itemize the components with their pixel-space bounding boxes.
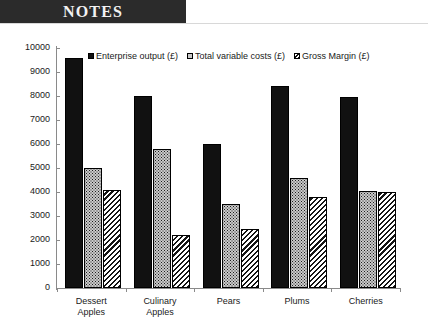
bar (103, 190, 121, 288)
x-axis-category-label: CulinaryApples (126, 296, 195, 318)
legend-swatch-icon (187, 53, 193, 59)
x-axis-category-label: Cherries (331, 296, 400, 307)
bar (84, 168, 102, 288)
x-axis-tick-mark (331, 288, 332, 292)
bar (378, 192, 396, 288)
bar (203, 144, 221, 288)
bar-group (271, 48, 327, 288)
category-label-line: Dessert (57, 296, 126, 307)
y-axis-tick-label: 10000 (2, 43, 50, 52)
x-axis-category-label: Pears (194, 296, 263, 307)
y-axis-tick-label: 6000 (2, 139, 50, 148)
bar (340, 97, 358, 288)
y-axis-tick-label: 3000 (2, 211, 50, 220)
legend-item: Gross Margin (£) (294, 51, 370, 61)
notes-banner: NOTES (0, 0, 186, 23)
y-axis-tick-label: 4000 (2, 187, 50, 196)
category-label-line: Apples (57, 307, 126, 318)
category-label-line: Plums (263, 296, 332, 307)
bar-group (340, 48, 396, 288)
bar (134, 96, 152, 288)
category-label-line: Culinary (126, 296, 195, 307)
legend-swatch-icon (294, 53, 300, 59)
x-axis-tick-mark (57, 288, 58, 292)
x-axis-category-label: DessertApples (57, 296, 126, 318)
x-axis-line (56, 288, 401, 289)
x-axis-category-label: Plums (263, 296, 332, 307)
bar-group (203, 48, 259, 288)
category-label-line: Apples (126, 307, 195, 318)
bar (153, 149, 171, 288)
category-label-line: Cherries (331, 296, 400, 307)
x-axis-tick-mark (194, 288, 195, 292)
y-axis-tick-label: 1000 (2, 259, 50, 268)
y-axis-tick-label: 8000 (2, 91, 50, 100)
bar (241, 229, 259, 288)
plot-area (57, 48, 400, 288)
y-axis-tick-label: 2000 (2, 235, 50, 244)
legend-label: Enterprise output (£) (96, 51, 178, 61)
bar-chart: 1000090008000700060005000400030002000100… (0, 24, 428, 329)
bar (290, 178, 308, 288)
legend-label: Gross Margin (£) (302, 51, 370, 61)
category-label-line: Pears (194, 296, 263, 307)
legend-label: Total variable costs (£) (195, 51, 285, 61)
bar (359, 191, 377, 288)
y-axis-tick-label: 5000 (2, 163, 50, 172)
chart-legend: Enterprise output (£)Total variable cost… (88, 51, 370, 61)
x-axis-tick-mark (263, 288, 264, 292)
bar (222, 204, 240, 288)
bar-group (134, 48, 190, 288)
x-axis-tick-mark (400, 288, 401, 292)
bar (271, 86, 289, 288)
bar (309, 197, 327, 288)
y-axis-tick-label: 9000 (2, 67, 50, 76)
bar (172, 235, 190, 288)
y-axis-tick-label: 7000 (2, 115, 50, 124)
legend-item: Enterprise output (£) (88, 51, 178, 61)
x-axis-tick-mark (126, 288, 127, 292)
bar (65, 58, 83, 288)
bar-group (65, 48, 121, 288)
notes-banner-title: NOTES (63, 3, 123, 21)
legend-item: Total variable costs (£) (187, 51, 285, 61)
y-axis-tick-label: 0 (2, 283, 50, 292)
legend-swatch-icon (88, 53, 94, 59)
